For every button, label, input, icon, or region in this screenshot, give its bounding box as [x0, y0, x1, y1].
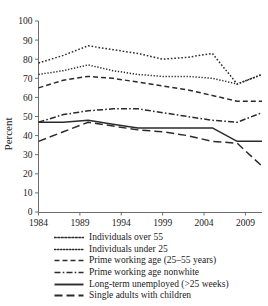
chart-legend: Individuals over 55Individuals under 25P… — [54, 232, 268, 302]
legend-item-label: Single adults with children — [89, 290, 191, 301]
y-tick-label: 30 — [23, 150, 33, 160]
legend-item[interactable]: Individuals over 55 — [54, 232, 268, 244]
y-tick-label: 80 — [23, 55, 33, 65]
y-tick-label: 90 — [23, 36, 33, 46]
x-tick-label: 1989 — [70, 218, 89, 228]
legend-item-label: Individuals under 25 — [89, 244, 168, 255]
legend-line-swatch — [54, 279, 84, 290]
y-tick-label: 0 — [28, 207, 33, 217]
data-series-group — [39, 46, 263, 166]
y-tick-label: 100 — [18, 16, 33, 26]
y-tick-label: 20 — [23, 169, 33, 179]
x-tick-label: 1999 — [153, 218, 172, 228]
chart-figure: 0102030405060708090100 19841989199419992… — [0, 0, 268, 306]
series-line — [39, 109, 263, 122]
x-tick-label: 2009 — [236, 218, 255, 228]
legend-item[interactable]: Prime working age (25–55 years) — [54, 255, 268, 267]
series-line — [39, 122, 263, 166]
legend-item-label: Long-term unemployed (>25 weeks) — [89, 279, 229, 290]
legend-line-swatch — [54, 255, 84, 266]
x-axis-ticks: 198419891994199920042009 — [29, 212, 255, 228]
legend-item[interactable]: Single adults with children — [54, 290, 268, 302]
legend-item[interactable]: Prime working age nonwhite — [54, 267, 268, 279]
y-tick-label: 60 — [23, 93, 33, 103]
series-line — [39, 65, 263, 84]
legend-line-swatch — [54, 244, 84, 255]
series-line — [39, 76, 263, 101]
legend-item-label: Prime working age (25–55 years) — [89, 255, 216, 266]
x-tick-label: 1994 — [112, 218, 131, 228]
y-tick-label: 70 — [23, 74, 33, 84]
x-tick-label: 1984 — [29, 218, 48, 228]
legend-item[interactable]: Individuals under 25 — [54, 244, 268, 256]
y-axis-label: Percent — [2, 118, 14, 151]
y-tick-label: 50 — [23, 112, 33, 122]
legend-line-swatch — [54, 267, 84, 278]
legend-line-swatch — [54, 232, 84, 243]
legend-item[interactable]: Long-term unemployed (>25 weeks) — [54, 278, 268, 290]
legend-line-swatch — [54, 290, 84, 301]
legend-item-label: Individuals over 55 — [89, 232, 163, 243]
legend-item-label: Prime working age nonwhite — [89, 267, 199, 278]
y-tick-label: 10 — [23, 188, 33, 198]
y-tick-label: 40 — [23, 131, 33, 141]
x-tick-label: 2004 — [195, 218, 214, 228]
y-axis-ticks: 0102030405060708090100 — [18, 16, 38, 217]
